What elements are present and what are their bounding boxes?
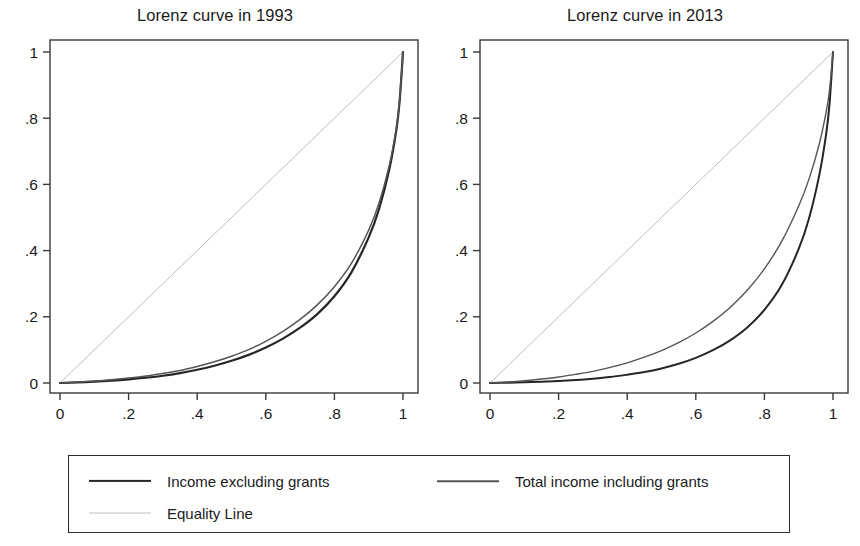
y-axis-tick-label: 0 — [29, 375, 38, 392]
lorenz-plot-1993: 0.2.4.6.810.2.4.6.81 — [0, 0, 430, 440]
x-axis-tick-label: 1 — [829, 405, 838, 422]
y-axis-tick-label: .6 — [455, 176, 468, 193]
y-axis-tick-label: 0 — [459, 375, 468, 392]
legend-line-sample-total-income-including-grants — [437, 474, 499, 488]
legend-area: Income excluding grants Total income inc… — [0, 440, 860, 546]
y-axis-tick-label: .2 — [25, 308, 38, 325]
series-line-equality-line — [60, 52, 403, 383]
y-axis-tick-label: .8 — [455, 110, 468, 127]
legend-line-sample-income-excluding-grants — [89, 474, 151, 488]
x-axis-tick-label: .6 — [689, 405, 702, 422]
y-axis-tick-label: 1 — [459, 44, 468, 61]
legend-entry-income-excluding-grants: Income excluding grants — [89, 468, 330, 494]
legend-box: Income excluding grants Total income inc… — [68, 455, 790, 533]
x-axis-tick-label: .6 — [259, 405, 272, 422]
legend-label-income-excluding-grants: Income excluding grants — [167, 473, 330, 490]
lorenz-curve-figure: Lorenz curve in 1993 0.2.4.6.810.2.4.6.8… — [0, 0, 860, 546]
legend-label-total-income-including-grants: Total income including grants — [515, 473, 708, 490]
x-axis-tick-label: .8 — [328, 405, 341, 422]
chart-panel-2013: Lorenz curve in 2013 0.2.4.6.810.2.4.6.8… — [430, 0, 860, 440]
legend-entry-total-income-including-grants: Total income including grants — [437, 468, 708, 494]
x-axis-tick-label: .2 — [552, 405, 565, 422]
y-axis-tick-label: .8 — [25, 110, 38, 127]
y-axis-tick-label: .2 — [455, 308, 468, 325]
series-line-equality-line — [490, 52, 833, 383]
y-axis-tick-label: .4 — [455, 242, 468, 259]
chart-panel-1993: Lorenz curve in 1993 0.2.4.6.810.2.4.6.8… — [0, 0, 430, 440]
legend-label-equality-line: Equality Line — [167, 505, 253, 522]
legend-line-sample-equality-line — [89, 506, 151, 520]
lorenz-plot-2013: 0.2.4.6.810.2.4.6.81 — [430, 0, 860, 440]
y-axis-tick-label: .6 — [25, 176, 38, 193]
x-axis-tick-label: .4 — [191, 405, 204, 422]
chart-panels: Lorenz curve in 1993 0.2.4.6.810.2.4.6.8… — [0, 0, 860, 440]
x-axis-tick-label: 0 — [56, 405, 65, 422]
legend-entry-equality-line: Equality Line — [89, 500, 253, 526]
x-axis-tick-label: 1 — [399, 405, 408, 422]
x-axis-tick-label: 0 — [486, 405, 495, 422]
x-axis-tick-label: .4 — [621, 405, 634, 422]
y-axis-tick-label: .4 — [25, 242, 38, 259]
x-axis-tick-label: .2 — [122, 405, 135, 422]
x-axis-tick-label: .8 — [758, 405, 771, 422]
y-axis-tick-label: 1 — [29, 44, 38, 61]
